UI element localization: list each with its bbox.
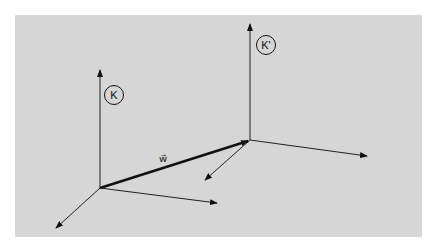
k-prime-depth-axis xyxy=(205,140,250,180)
vector-w-label: w⃗ xyxy=(159,153,167,164)
k-prime-horizontal-axis xyxy=(250,140,367,156)
frame-k: K xyxy=(56,70,217,228)
vector-w: w⃗ xyxy=(100,141,248,188)
vector-w-line xyxy=(100,141,248,188)
frame-k-prime: K' xyxy=(205,24,367,180)
k-depth-axis xyxy=(56,188,100,228)
k-label: K xyxy=(110,89,118,101)
k-horizontal-axis xyxy=(100,188,217,203)
k-prime-label: K' xyxy=(261,39,270,51)
diagram-canvas: K K' w⃗ xyxy=(0,0,433,248)
